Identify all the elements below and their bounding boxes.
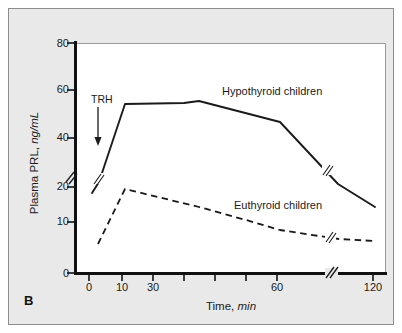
- y-axis-title-unit: ng/mL: [28, 112, 40, 144]
- y-tick-label-60: 60: [39, 83, 69, 95]
- panel-letter-label: B: [24, 293, 33, 308]
- chart-panel: 80 60 40 20 10 0 0 10 30 60 120 Plasma P…: [8, 8, 394, 325]
- y-tick-label-20: 20: [39, 180, 69, 192]
- x-tick-label-120: 120: [364, 281, 382, 293]
- y-axis-line: [74, 41, 77, 275]
- series-label-euthyroid: Euthyroid children: [234, 199, 322, 211]
- x-tick-label-60: 60: [271, 281, 283, 293]
- y-tick-label-40: 40: [39, 131, 69, 143]
- trh-annotation-label: TRH: [91, 93, 113, 105]
- plot-area: [76, 43, 386, 274]
- figure-panel-b: 80 60 40 20 10 0 0 10 30 60 120 Plasma P…: [0, 0, 402, 333]
- x-axis-title: Time, min: [76, 300, 386, 312]
- x-axis-title-text: Time,: [206, 300, 234, 312]
- y-axis-title: Plasma PRL, ng/mL: [28, 78, 40, 248]
- x-tick-label-30: 30: [147, 281, 159, 293]
- y-tick-label-80: 80: [39, 37, 69, 49]
- x-axis-title-unit: min: [238, 300, 257, 312]
- y-axis-title-text: Plasma PRL,: [28, 147, 40, 214]
- y-tick-label-10: 10: [39, 215, 69, 227]
- x-tick-label-10: 10: [116, 281, 128, 293]
- series-label-hypothyroid: Hypothyroid children: [222, 85, 322, 97]
- x-tick-label-0: 0: [86, 281, 92, 293]
- x-axis-line: [74, 272, 387, 275]
- y-tick-label-0: 0: [39, 267, 69, 279]
